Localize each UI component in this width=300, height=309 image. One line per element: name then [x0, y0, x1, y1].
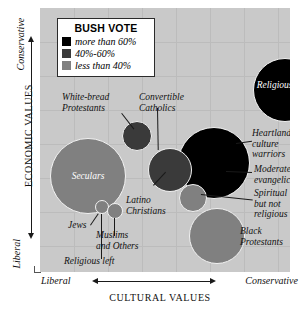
legend-entry-low: less than 40%	[62, 60, 150, 71]
leader-line-convertible-catholics	[157, 108, 159, 150]
legend-swatch-high	[62, 37, 71, 46]
label-black-protestants: Black Protestants	[240, 226, 283, 247]
bubble-chart: Religious right Seculars White-brea	[0, 0, 300, 309]
legend-swatch-mid	[62, 49, 71, 58]
bubble-black-protestants	[189, 208, 245, 264]
x-axis-left-label: Liberal	[41, 275, 70, 286]
legend-title: BUSH VOTE	[62, 22, 150, 34]
x-axis-right-label: Conservative	[245, 275, 298, 286]
bubble-spiritual-but-not-religious	[179, 184, 207, 212]
y-axis-arrowhead-down	[28, 233, 34, 239]
legend-label-high: more than 60%	[75, 36, 136, 47]
x-axis-arrowhead-right	[210, 278, 216, 284]
bubble-religious-right: Religious right	[253, 58, 290, 122]
legend-label-low: less than 40%	[75, 60, 131, 71]
legend-label-mid: 40%-60%	[75, 48, 115, 59]
legend-entry-mid: 40%-60%	[62, 48, 150, 59]
leader-line-jews	[90, 213, 99, 225]
plot-area: Religious right Seculars White-brea	[40, 8, 290, 272]
x-axis-arrowhead-left	[92, 278, 98, 284]
legend-swatch-low	[62, 61, 71, 70]
legend: BUSH VOTE more than 60% 40%-60% less tha…	[57, 18, 155, 77]
x-axis-arrow-line	[98, 281, 210, 282]
bubble-label-seculars: Seculars	[51, 171, 125, 182]
label-heartland-culture-warriors: Heartland culture warriors	[252, 128, 290, 160]
y-axis-bottom-label: Liberal	[11, 219, 22, 269]
label-religious-left: Religious left	[64, 256, 114, 267]
label-muslims-and-others: Muslims and Others	[96, 230, 139, 251]
label-white-bread-protestants: White-bread Protestants	[62, 92, 109, 113]
label-spiritual-but-not-religious: Spiritual but not religious	[254, 188, 290, 220]
y-axis-arrow-line	[31, 42, 32, 234]
label-moderate-evangelicals: Moderate evangelicals	[254, 164, 290, 185]
bubble-white-bread-protestants	[122, 121, 152, 151]
label-convertible-catholics: Convertible Catholics	[139, 92, 184, 113]
y-axis-arrowhead-up	[28, 36, 34, 42]
label-latino-christians: Latino Christians	[126, 195, 166, 216]
axis-corner-tick	[34, 266, 41, 273]
legend-entry-high: more than 60%	[62, 36, 150, 47]
y-axis-top-label: Conservative	[15, 1, 26, 71]
label-jews: Jews	[68, 220, 86, 231]
gridline-vertical	[176, 8, 177, 272]
bubble-muslims-and-others	[107, 203, 123, 219]
bubble-label-religious-right: Religious right	[254, 80, 290, 91]
x-axis-title: CULTURAL VALUES	[60, 292, 260, 303]
